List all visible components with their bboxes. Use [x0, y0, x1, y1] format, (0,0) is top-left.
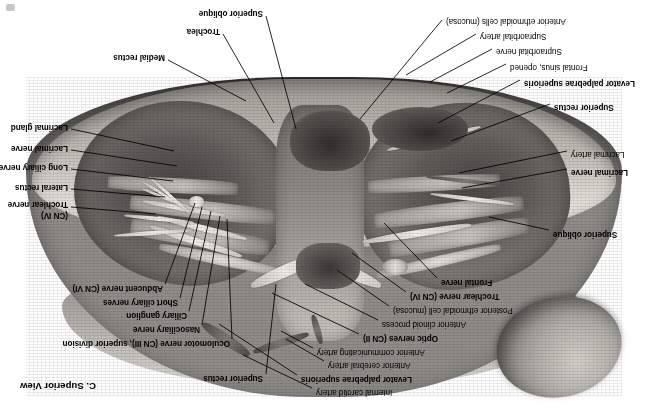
- label-medial-rectus: Medial rectus: [113, 53, 165, 62]
- leader-supraorbital-artery: [406, 34, 476, 75]
- label-optic-nerves: Optic nerves (CN II): [363, 334, 438, 343]
- rotated-plate-contents: C. Superior View Internal carotid artery…: [0, 0, 652, 419]
- label-oculomotor-nerve-cn3: Oculomotor nerve (CN III), superior divi…: [63, 339, 231, 348]
- label-abducent-nerve-cn6: Abducent nerve (CN VI): [73, 284, 163, 293]
- label-anterior-cerebral-artery: Anterior cerebral artery: [328, 361, 411, 370]
- frontal-sinus-opened-cavity: [372, 107, 468, 151]
- label-lacrimal-nerve-right: Lacrimal nerve: [11, 144, 68, 153]
- ciliary-ganglion-node: [189, 196, 204, 207]
- label-internal-carotid-artery: Internal carotid artery: [316, 388, 392, 397]
- label-anterior-ethmoidal-cells: Anterior ethmoidal cells (mucosa): [446, 17, 566, 26]
- anterior-ethmoidal-cells-cavity: [290, 111, 370, 171]
- label-short-ciliary-nerves: Short ciliary nerves: [103, 298, 178, 307]
- label-lacrimal-gland: Lacrimal gland: [11, 123, 68, 132]
- figure-title: C. Superior View: [20, 381, 96, 392]
- label-superior-rectus-bottom: Superior rectus: [554, 103, 614, 112]
- label-levator-palpebrae-superioris-bottom: Levator palpebrae superioris: [524, 79, 635, 88]
- label-anterior-communicating-artery: Anterior communicating artery: [317, 348, 425, 357]
- label-superior-oblique-left: Superior oblique: [553, 230, 617, 239]
- label-nasociliary-nerve: Nasociliary nerve: [133, 325, 200, 334]
- label-levator-palpebrae-superioris-top: Levator palpebrae superioris: [301, 375, 412, 384]
- label-supraorbital-artery: Supraorbital artery: [480, 32, 546, 41]
- label-posterior-ethmoidal-cell: Posterior ethmoidal cell (mucosa): [393, 306, 513, 315]
- label-lacrimal-nerve-left: Lacrimal nerve: [571, 168, 628, 177]
- label-frontal-sinus-opened: Frontal sinus, opened: [510, 63, 588, 72]
- label-trochlear-nerve-cn4-right: Trochlear nerve: [8, 200, 68, 209]
- label-supraorbital-nerve: Supraorbital nerve: [496, 47, 562, 56]
- label-long-ciliary-nerves: Long ciliary nerves: [0, 163, 68, 172]
- label-trochlear-nerve-cn4-right-line2: (CN IV): [41, 211, 68, 220]
- label-superior-oblique-bottom: Superior oblique: [199, 9, 263, 18]
- label-lateral-rectus: Lateral rectus: [15, 183, 68, 192]
- label-trochlear-nerve-cn4-left: Trochlear nerve (CN IV): [410, 292, 499, 301]
- label-trochlea: Trochlea: [187, 27, 220, 36]
- anatomical-plate: C. Superior View Internal carotid artery…: [0, 0, 652, 419]
- label-lacrimal-artery: Lacrimal artery: [571, 150, 624, 159]
- label-frontal-nerve: Frontal nerve: [441, 278, 492, 287]
- posterior-ethmoidal-cell-cavity: [296, 243, 360, 289]
- trochlea-left: [382, 259, 408, 275]
- label-ciliary-ganglion: Ciliary ganglion: [126, 311, 187, 320]
- label-superior-rectus-top: Superior rectus: [203, 374, 263, 383]
- label-anterior-clinoid-process: Anterior clinoid process: [382, 320, 466, 329]
